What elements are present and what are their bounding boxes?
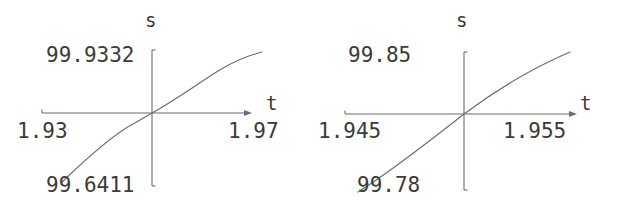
left-y-max-tick-label: 99.9332 bbox=[46, 45, 135, 66]
right-x-axis-name: t bbox=[580, 94, 591, 113]
right-x-max-tick-label: 1.955 bbox=[503, 121, 566, 142]
right-y-axis bbox=[464, 52, 468, 190]
right-y-min-tick-label: 99.78 bbox=[357, 175, 420, 196]
two-panel-plot-figure: 99.9332 99.6411 1.93 1.97 s t 99.85 99. bbox=[0, 0, 619, 215]
plot-panel-left: 99.9332 99.6411 1.93 1.97 s t bbox=[0, 0, 310, 215]
left-x-min-tick-label: 1.93 bbox=[17, 121, 68, 142]
left-data-curve bbox=[62, 52, 262, 182]
left-y-min-tick-label: 99.6411 bbox=[46, 175, 135, 196]
right-x-min-tick-label: 1.945 bbox=[318, 121, 381, 142]
left-y-axis-name: s bbox=[145, 11, 156, 30]
right-y-max-tick-label: 99.85 bbox=[348, 45, 411, 66]
left-y-axis bbox=[152, 50, 156, 186]
right-y-axis-name: s bbox=[456, 11, 467, 30]
left-x-axis-name: t bbox=[266, 94, 277, 113]
left-x-max-tick-label: 1.97 bbox=[228, 121, 279, 142]
left-x-axis bbox=[42, 110, 252, 117]
